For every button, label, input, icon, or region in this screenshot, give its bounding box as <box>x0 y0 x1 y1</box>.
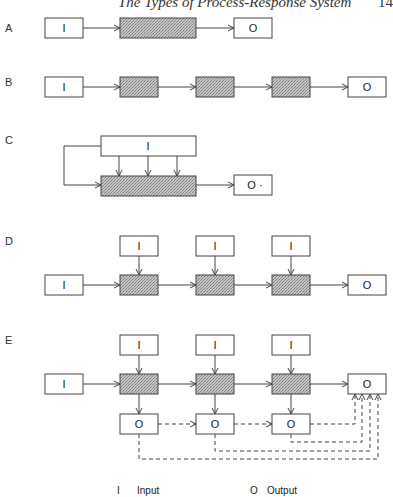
process-box <box>272 275 310 295</box>
dashed-feedback-arrow <box>139 394 378 459</box>
panel-label-e: E <box>5 334 12 346</box>
output-symbol: O <box>211 418 220 430</box>
panel-e: E I I I I O O O O <box>5 334 386 459</box>
panel-label-c: C <box>5 134 13 146</box>
input-symbol: I <box>62 279 65 291</box>
input-symbol: I <box>213 339 216 351</box>
panel-label-a: A <box>5 22 13 34</box>
process-box <box>196 77 234 97</box>
output-symbol: O <box>363 279 372 291</box>
panel-c: C I O · <box>5 134 272 196</box>
input-symbol: I <box>62 22 65 34</box>
panel-label-b: B <box>5 76 12 88</box>
legend-output-symbol: O <box>250 485 258 496</box>
input-symbol: I <box>146 140 149 152</box>
legend-output-label: Output <box>267 485 297 496</box>
output-symbol: O <box>363 378 372 390</box>
output-symbol: O <box>249 22 258 34</box>
process-box <box>120 18 196 38</box>
process-box <box>196 374 234 394</box>
output-symbol: O · <box>247 179 262 191</box>
process-box <box>120 374 158 394</box>
panel-d: D I I I I O <box>5 235 386 295</box>
legend: I Input O Output <box>117 485 297 496</box>
process-box <box>101 176 196 196</box>
process-box <box>120 77 158 97</box>
bypass-arrow <box>64 146 101 185</box>
process-box <box>272 77 310 97</box>
legend-input-label: Input <box>137 485 159 496</box>
input-symbol: I <box>289 240 292 252</box>
panel-a: A I O <box>5 18 272 38</box>
input-symbol: I <box>137 240 140 252</box>
process-box <box>120 275 158 295</box>
input-symbol: I <box>137 339 140 351</box>
process-box <box>272 374 310 394</box>
input-symbol: I <box>62 81 65 93</box>
process-response-diagram: A I O B I O C I O · D <box>0 0 393 497</box>
process-box <box>196 275 234 295</box>
input-symbol: I <box>62 378 65 390</box>
dashed-feedback-arrow <box>310 394 355 424</box>
input-symbol: I <box>289 339 292 351</box>
panel-b: B I O <box>5 76 386 97</box>
input-symbol: I <box>213 240 216 252</box>
output-symbol: O <box>287 418 296 430</box>
output-symbol: O <box>363 81 372 93</box>
panel-label-d: D <box>5 235 13 247</box>
legend-input-symbol: I <box>117 485 120 496</box>
output-symbol: O <box>135 418 144 430</box>
